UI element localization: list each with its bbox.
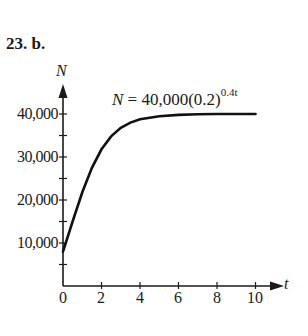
- x-tick-label: 0: [51, 289, 75, 307]
- y-tick-label: 20,000: [0, 191, 58, 209]
- x-axis-arrow-icon: [270, 282, 284, 291]
- x-tick-label: 8: [205, 289, 229, 307]
- y-tick-label: 40,000: [0, 105, 58, 123]
- equation-lhs: N: [112, 90, 123, 109]
- chart-canvas: [0, 0, 308, 336]
- y-tick-label: 10,000: [0, 234, 58, 252]
- data-curve: [63, 114, 256, 252]
- x-tick-label: 2: [89, 289, 113, 307]
- equation-label: N = 40,000(0.2)0.4t: [112, 88, 238, 110]
- x-axis-title: t: [284, 275, 288, 293]
- y-axis-title: N: [56, 62, 67, 80]
- y-tick-label: 30,000: [0, 148, 58, 166]
- equation-exponent: 0.4t: [221, 86, 238, 98]
- y-axis-arrow-icon: [59, 84, 68, 98]
- x-tick-label: 10: [243, 289, 267, 307]
- equation-base: 40,000(0.2): [141, 90, 220, 109]
- x-tick-label: 4: [128, 289, 152, 307]
- x-tick-label: 6: [166, 289, 190, 307]
